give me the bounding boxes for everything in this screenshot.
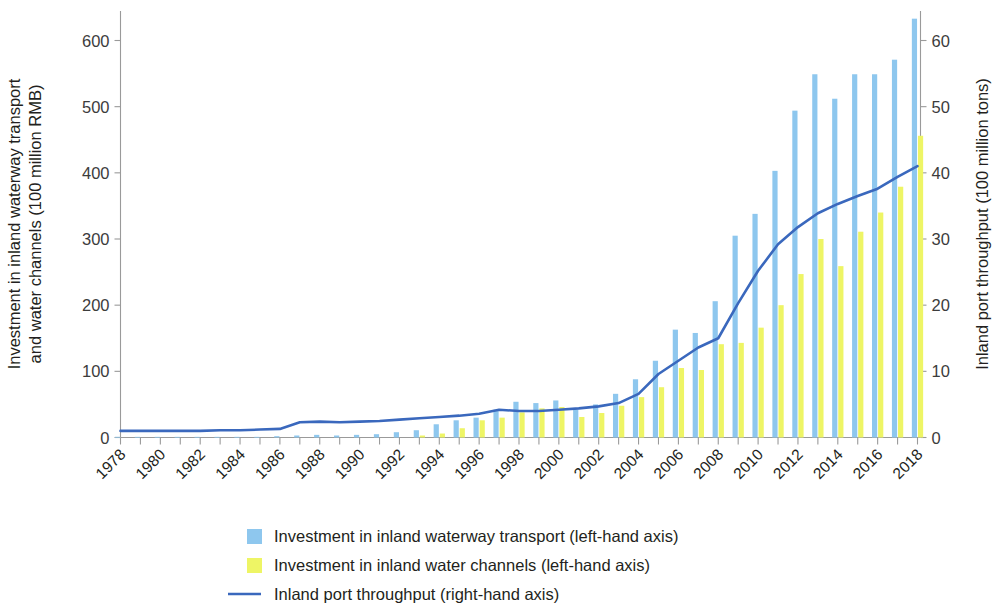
- x-tick-label: 1984: [212, 445, 249, 482]
- bar-investment-channels: [440, 434, 445, 438]
- chart-figure: Investment in inland waterway transporta…: [0, 0, 999, 604]
- bar-investment-transport: [633, 379, 638, 437]
- x-tick-label: 2012: [770, 446, 806, 482]
- bar-investment-transport: [513, 402, 518, 438]
- right-tick-label: 60: [932, 32, 950, 50]
- right-tick-label: 40: [932, 164, 950, 182]
- bar-investment-channels: [559, 407, 564, 437]
- bar-investment-transport: [553, 400, 558, 437]
- bar-investment-transport: [155, 437, 160, 438]
- left-tick-label: 600: [82, 32, 110, 50]
- bar-investment-transport: [593, 404, 598, 437]
- bar-investment-transport: [214, 437, 219, 438]
- bar-investment-channels: [778, 305, 783, 437]
- bar-investment-transport: [115, 437, 120, 438]
- right-tick-label: 10: [932, 362, 950, 380]
- bar-investment-transport: [254, 437, 259, 438]
- x-tick-label: 2014: [810, 445, 847, 482]
- bar-investment-channels: [539, 408, 544, 437]
- bar-investment-transport: [493, 410, 498, 438]
- bar-investment-channels: [878, 213, 883, 438]
- x-tick-label: 2002: [570, 446, 606, 482]
- bar-investment-transport: [573, 410, 578, 438]
- bar-investment-transport: [653, 361, 658, 438]
- bar-investment-transport: [195, 437, 200, 438]
- x-tick-label: 1996: [451, 446, 487, 482]
- bar-investment-channels: [519, 412, 524, 437]
- bar-investment-channels: [699, 370, 704, 437]
- x-tick-label: 1994: [411, 445, 448, 482]
- left-tick-label: 300: [82, 230, 110, 248]
- x-tick-label: 2008: [690, 446, 726, 482]
- bar-investment-transport: [673, 330, 678, 438]
- bar-investment-channels: [579, 417, 584, 438]
- left-axis-title: Investment in inland waterway transporta…: [5, 78, 44, 369]
- bar-investment-transport: [533, 403, 538, 437]
- bar-investment-channels: [619, 406, 624, 438]
- x-axis-ticks: 1978198019821984198619881990199219941996…: [92, 438, 925, 483]
- legend-label: Investment in inland waterway transport …: [274, 527, 678, 545]
- bar-investment-transport: [135, 437, 140, 438]
- bar-investment-transport: [733, 236, 738, 438]
- bar-investment-transport: [374, 434, 379, 437]
- right-axis-ticks: 0102030405060: [921, 32, 950, 447]
- bar-investment-channels: [480, 420, 485, 437]
- bar-investment-transport: [872, 74, 877, 437]
- right-tick-label: 20: [932, 296, 950, 314]
- bar-investment-channels: [420, 436, 425, 438]
- bar-investment-channels: [599, 413, 604, 437]
- bar-investment-transport: [613, 394, 618, 438]
- bar-investment-channels: [639, 397, 644, 437]
- x-tick-label: 1988: [291, 446, 327, 482]
- x-tick-label: 1980: [132, 445, 169, 482]
- bar-investment-channels: [659, 387, 664, 437]
- right-axis-title: Inland port throughput (100 million tons…: [973, 78, 991, 370]
- left-tick-label: 0: [100, 429, 109, 447]
- bar-investment-channels: [679, 368, 684, 437]
- left-tick-label: 100: [82, 362, 110, 380]
- bar-investment-channels: [759, 328, 764, 438]
- line-inland-port-throughput: [121, 166, 918, 431]
- legend-label: Inland port throughput (right-hand axis): [274, 585, 559, 603]
- bar-investment-channels: [818, 239, 823, 438]
- legend-item: Investment in inland waterway transport …: [247, 527, 678, 545]
- x-tick-label: 1990: [331, 445, 368, 482]
- line-series-group: [121, 166, 918, 431]
- right-tick-label: 50: [932, 98, 950, 116]
- bar-investment-transport: [852, 74, 857, 437]
- bar-investment-channels: [838, 266, 843, 437]
- bar-investment-transport: [354, 435, 359, 438]
- bar-investment-channels: [460, 428, 465, 437]
- bar-investment-transport: [454, 420, 459, 437]
- right-tick-label: 0: [932, 429, 941, 447]
- left-axis-ticks: 0100200300400500600: [82, 32, 121, 447]
- bar-investment-channels: [898, 187, 903, 438]
- x-tick-label: 1982: [172, 446, 208, 482]
- left-axis-title-line: Investment in inland waterway transport: [5, 78, 23, 369]
- bar-investment-transport: [274, 436, 279, 437]
- x-tick-label: 2016: [849, 446, 885, 482]
- bar-investment-transport: [792, 111, 797, 438]
- left-tick-label: 400: [82, 164, 110, 182]
- bar-investment-transport: [912, 19, 917, 438]
- left-tick-label: 200: [82, 296, 110, 314]
- x-tick-label: 2010: [730, 445, 767, 482]
- bar-investment-transport: [474, 418, 479, 438]
- legend-label: Investment in inland water channels (lef…: [274, 556, 650, 574]
- bar-investment-transport: [812, 74, 817, 437]
- bar-investment-transport: [713, 301, 718, 437]
- bar-investment-transport: [832, 99, 837, 438]
- x-tick-label: 2004: [610, 445, 647, 482]
- right-axis-title-line: Inland port throughput (100 million tons…: [973, 78, 991, 370]
- bar-investment-transport: [752, 214, 757, 438]
- bar-investment-transport: [314, 435, 319, 438]
- bar-investment-transport: [892, 60, 897, 438]
- x-tick-label: 2006: [650, 446, 686, 482]
- bar-investment-transport: [772, 171, 777, 438]
- x-tick-label: 2018: [889, 446, 925, 482]
- bar-investment-channels: [500, 418, 505, 438]
- x-tick-label: 2000: [531, 445, 568, 482]
- bar-investment-channels: [719, 344, 724, 437]
- bar-investment-transport: [294, 436, 299, 438]
- legend-item: Inland port throughput (right-hand axis): [228, 585, 559, 603]
